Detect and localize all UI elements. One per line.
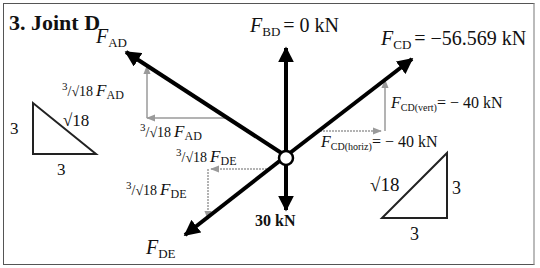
triangle-right-vertical-label: 3 [452,178,461,198]
ad-vertical-component-label: 3/√18FAD [62,80,124,102]
free-body-diagram: 3. Joint D FAD FBD= 0 kN FCD= −56.569 kN… [0,0,540,268]
force-ad-label: FAD [95,25,127,50]
cd-horizontal-component-label: FCD(horiz)= − 40 kN [320,133,438,153]
triangle-left-hyp-label: √18 [63,111,89,130]
cd-vertical-component-label: FCD(vert)= − 40 kN [390,94,503,114]
force-ad-arrow [126,52,286,156]
triangle-right-base-label: 3 [410,224,419,244]
slope-triangle-left: 3 √18 3 [10,103,96,179]
de-horizontal-component-label: 3/√18FDE [176,146,236,168]
de-vertical-component-label: 3/√18FDE [126,179,186,201]
triangle-right-hyp-label: √18 [370,174,399,195]
joint-d-node [279,151,293,165]
force-bd-label: FBD= 0 kN [249,14,339,39]
section-title: 3. Joint D [9,10,100,35]
load-label: 30 kN [255,212,296,229]
slope-triangle-right: √18 3 3 [370,153,461,244]
ad-horizontal-component-label: 3/√18FAD [140,121,202,143]
triangle-left-base-label: 3 [57,160,66,179]
triangle-left-vertical-label: 3 [10,119,19,138]
force-cd-label: FCD= −56.569 kN [380,27,526,52]
force-de-label: FDE [145,236,176,261]
